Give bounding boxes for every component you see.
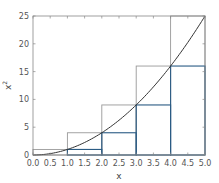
x-tick-label: 2.0 <box>95 159 108 168</box>
x-tick-label: 4.5 <box>181 159 194 168</box>
y-tick-label: 20 <box>19 40 29 49</box>
x-tick-label: 5.0 <box>199 159 212 168</box>
x-tick-label: 1.0 <box>61 159 74 168</box>
plot-frame <box>33 16 205 155</box>
x-tick-label: 1.5 <box>78 159 91 168</box>
x-tick-label: 0.0 <box>27 159 40 168</box>
parabola-curve <box>33 16 205 155</box>
x-tick-label: 3.5 <box>147 159 160 168</box>
x-tick-label: 2.5 <box>113 159 126 168</box>
y-tick-label: 0 <box>24 151 29 160</box>
x-tick-label: 0.5 <box>44 159 57 168</box>
upper-rect <box>136 66 170 155</box>
lower-rect <box>102 133 136 155</box>
x-axis-label: x <box>116 171 122 181</box>
y-tick-label: 5 <box>24 123 29 132</box>
upper-sum-rectangles <box>33 16 205 155</box>
y-axis-label: x2 <box>1 81 13 90</box>
x-tick-label: 4.0 <box>164 159 177 168</box>
riemann-sum-chart: 0.00.51.01.52.02.53.03.54.04.55.0 051015… <box>0 0 219 183</box>
y-axis-ticks: 0510152025 <box>19 12 205 160</box>
y-tick-label: 10 <box>19 95 29 104</box>
upper-rect <box>171 16 205 155</box>
lower-rect <box>171 66 205 155</box>
y-tick-label: 15 <box>19 68 29 77</box>
lower-rect <box>136 105 170 155</box>
x-tick-label: 3.0 <box>130 159 143 168</box>
x-axis-ticks: 0.00.51.01.52.02.53.03.54.04.55.0 <box>27 16 212 168</box>
upper-rect <box>102 105 136 155</box>
y-tick-label: 25 <box>19 12 29 21</box>
